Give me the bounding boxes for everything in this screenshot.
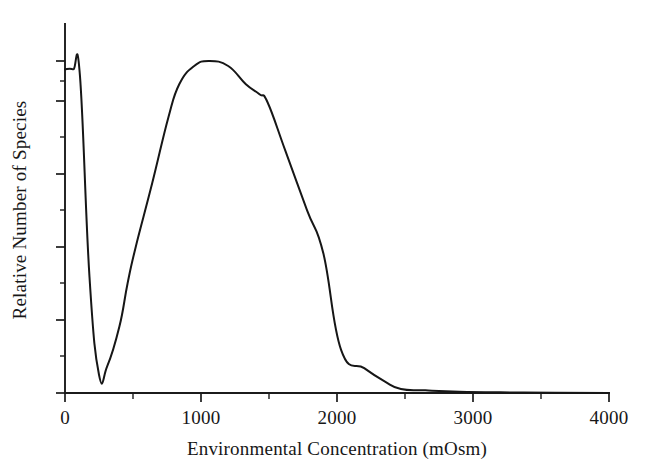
x-axis-title: Environmental Concentration (mOsm) [187, 438, 487, 460]
y-axis-title: Relative Number of Species [9, 101, 30, 320]
x-tick-label-0: 0 [60, 407, 70, 428]
x-axis-major-ticks [65, 393, 609, 402]
x-tick-label-3000: 3000 [454, 407, 493, 428]
species-distribution-curve [65, 54, 609, 393]
y-axis-major-ticks [56, 61, 65, 393]
x-tick-label-2000: 2000 [318, 407, 357, 428]
chart-figure: 0 1000 2000 3000 4000 Environmental Conc… [0, 0, 660, 471]
x-tick-label-4000: 4000 [590, 407, 629, 428]
x-tick-label-1000: 1000 [182, 407, 221, 428]
chart-plot-area: 0 1000 2000 3000 4000 Environmental Conc… [0, 0, 660, 471]
